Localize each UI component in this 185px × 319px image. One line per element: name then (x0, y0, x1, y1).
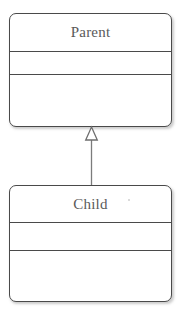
uml-class-child[interactable]: Child (9, 185, 172, 302)
render-speck (128, 199, 130, 201)
class-operations-compartment (10, 75, 171, 126)
class-attributes-compartment (10, 223, 171, 251)
class-operations-compartment (10, 251, 171, 301)
class-name-label: Child (73, 197, 107, 212)
class-name-compartment: Child (10, 186, 171, 223)
class-name-compartment: Parent (10, 14, 171, 52)
class-attributes-compartment (10, 52, 171, 75)
uml-class-parent[interactable]: Parent (9, 13, 172, 127)
generalization-connector[interactable] (72, 124, 112, 188)
class-name-label: Parent (71, 25, 111, 40)
diagram-canvas: Parent Child (0, 0, 185, 319)
generalization-hollow-triangle-icon (86, 127, 98, 140)
